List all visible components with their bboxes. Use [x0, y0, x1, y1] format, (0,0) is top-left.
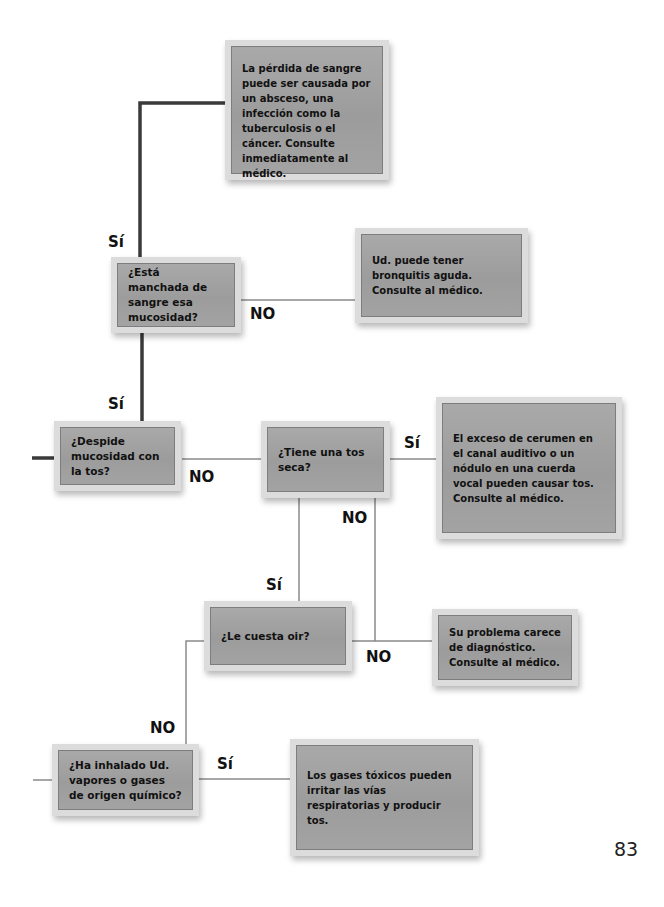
edge-label-yes-blood: Sí: [108, 233, 124, 251]
edge-label-yes-earwax: Sí: [404, 434, 420, 452]
page-number: 83: [614, 838, 638, 860]
question-dry-cough-box: ¿Tiene una tos seca?: [261, 421, 390, 498]
edge-label-yes-hearing: Sí: [266, 576, 282, 594]
result-bronchitis-box: Ud. puede tener bronquitis aguda. Consul…: [355, 228, 528, 323]
result-bronchitis-text: Ud. puede tener bronquitis aguda. Consul…: [361, 234, 522, 317]
result-blood-causes-text: La pérdida de sangre puede ser causada p…: [231, 46, 383, 174]
result-blood-causes-box: La pérdida de sangre puede ser causada p…: [225, 40, 389, 180]
edge-label-yes-phlegm: Sí: [108, 395, 124, 413]
question-blood-stained-text: ¿Está manchada de sangre esa mucosidad?: [117, 263, 235, 327]
result-toxic-gases-text: Los gases tóxicos pueden irritar las vía…: [296, 745, 473, 850]
result-no-diagnosis-box: Su problema carece de diagnóstico. Consu…: [432, 609, 578, 686]
flowchart-page: La pérdida de sangre puede ser causada p…: [0, 0, 664, 907]
question-hearing-box: ¿Le cuesta oir?: [204, 601, 352, 671]
edge-label-no-diagnosis: NO: [366, 648, 391, 666]
result-earwax-text: El exceso de cerumen en el canal auditiv…: [442, 403, 616, 533]
question-dry-cough-text: ¿Tiene una tos seca?: [267, 427, 384, 492]
result-earwax-box: El exceso de cerumen en el canal auditiv…: [436, 397, 622, 539]
question-hearing-text: ¿Le cuesta oir?: [210, 607, 346, 665]
edge-label-no-dry-cough: NO: [342, 509, 367, 527]
question-blood-stained-box: ¿Está manchada de sangre esa mucosidad?: [111, 257, 241, 333]
question-phlegm-box: ¿Despide mucosidad con la tos?: [54, 421, 181, 491]
question-phlegm-text: ¿Despide mucosidad con la tos?: [60, 427, 175, 485]
edge-label-no-bronchitis: NO: [250, 305, 275, 323]
result-no-diagnosis-text: Su problema carece de diagnóstico. Consu…: [438, 615, 572, 680]
edge-label-no-hearing: NO: [150, 719, 175, 737]
result-toxic-gases-box: Los gases tóxicos pueden irritar las vía…: [290, 739, 479, 856]
question-fumes-box: ¿Ha inhalado Ud. vapores o gases de orig…: [52, 744, 199, 816]
question-fumes-text: ¿Ha inhalado Ud. vapores o gases de orig…: [58, 750, 193, 810]
edge-label-yes-fumes: Sí: [217, 755, 233, 773]
edge-label-no-phlegm: NO: [189, 468, 214, 486]
